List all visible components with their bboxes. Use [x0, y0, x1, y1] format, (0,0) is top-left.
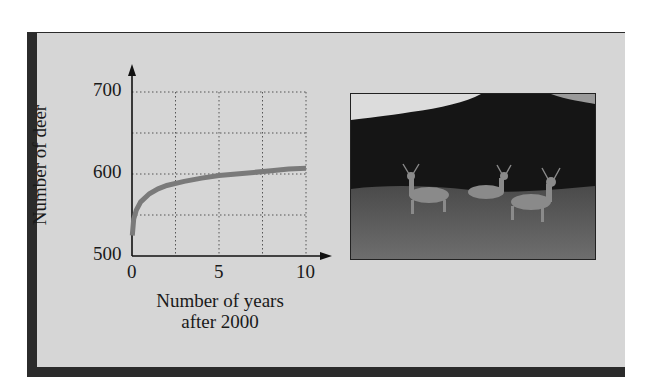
x-axis-label: Number of years after 2000	[140, 290, 300, 332]
y-tick-700: 700	[93, 79, 122, 101]
x-axis-arrow-icon	[320, 252, 332, 260]
x-tick-0: 0	[127, 261, 137, 283]
y-tick-600: 600	[93, 161, 122, 183]
x-axis-label-line1: Number of years	[140, 290, 300, 311]
x-axis-label-line2: after 2000	[140, 311, 300, 332]
y-axis-label: Number of deer	[29, 90, 51, 240]
axes	[128, 64, 332, 260]
x-tick-10: 10	[296, 261, 315, 283]
y-tick-500: 500	[93, 243, 122, 265]
grass	[351, 186, 595, 259]
deer-in-meadow-photo	[350, 93, 596, 260]
x-tick-5: 5	[214, 261, 224, 283]
y-axis-arrow-icon	[128, 64, 136, 76]
